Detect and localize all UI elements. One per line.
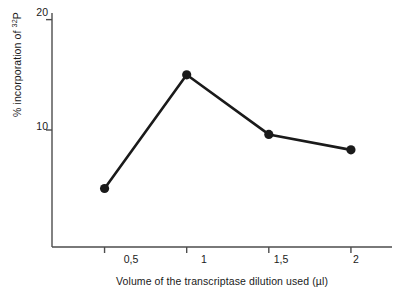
y-axis-ticks bbox=[46, 20, 52, 130]
data-point-2 bbox=[346, 145, 355, 154]
data-point-1,5 bbox=[264, 130, 273, 139]
x-tick-label-3: 2 bbox=[336, 253, 376, 265]
axes bbox=[52, 13, 392, 247]
y-tick-label-20: 20 bbox=[18, 6, 48, 18]
y-axis-label-prefix: % incorporation of bbox=[11, 28, 23, 117]
data-markers bbox=[100, 70, 356, 193]
data-line bbox=[105, 75, 351, 189]
y-axis-label-superscript: 32 bbox=[10, 19, 19, 27]
data-point-0,5 bbox=[100, 184, 109, 193]
x-tick-label-1: 1 bbox=[184, 253, 224, 265]
x-tick-label-2: 1,5 bbox=[261, 253, 301, 265]
y-tick-label-10: 10 bbox=[18, 120, 48, 132]
x-axis-label: Volume of the transcriptase dilution use… bbox=[52, 275, 392, 287]
data-point-1 bbox=[182, 70, 191, 79]
x-tick-label-0: 0,5 bbox=[111, 253, 151, 265]
chart-figure: % incorporation of 32P 20 10 0,5 1 1,5 2… bbox=[0, 0, 402, 297]
